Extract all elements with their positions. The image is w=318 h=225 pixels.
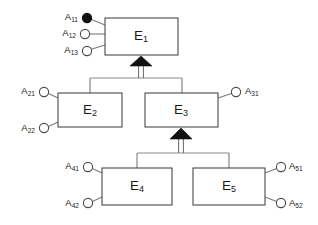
er-diagram: E1 E2 E3 E4 E5 xyxy=(0,0,318,225)
attribute-circle-a13[interactable] xyxy=(82,46,91,55)
attribute-circle-a21[interactable] xyxy=(39,87,48,96)
attribute-label-a21: A21 xyxy=(21,85,35,97)
generalization-shaft-lower xyxy=(179,139,184,153)
attribute-label-a52: A52 xyxy=(289,197,303,209)
attribute-label-a13: A13 xyxy=(64,44,78,56)
connector-a51 xyxy=(265,169,277,173)
attribute-label-a42: A42 xyxy=(65,197,79,209)
attribute-circle-a52[interactable] xyxy=(276,198,285,207)
attribute-circle-a42[interactable] xyxy=(83,198,92,207)
connector-a42 xyxy=(92,197,102,201)
attribute-circle-a12[interactable] xyxy=(80,29,89,38)
generalization-arrowhead-upper xyxy=(130,56,152,66)
generalization-arrowhead-lower xyxy=(170,128,192,139)
connector-a41 xyxy=(92,169,102,173)
attribute-circle-a41[interactable] xyxy=(83,162,92,171)
connector-a21 xyxy=(48,94,58,98)
connector-a13 xyxy=(91,45,105,49)
attribute-label-a41: A41 xyxy=(65,160,79,172)
connector-a52 xyxy=(265,197,277,201)
diagram-canvas: E1 E2 E3 E4 E5 xyxy=(0,0,318,225)
attribute-label-a12: A12 xyxy=(62,27,76,39)
attribute-label-a22: A22 xyxy=(21,122,35,134)
attribute-label-a31: A31 xyxy=(245,85,259,97)
attribute-label-a11: A11 xyxy=(65,11,79,23)
connector-a31 xyxy=(218,94,232,98)
attribute-circle-a51[interactable] xyxy=(276,162,285,171)
generalization-to-e1 xyxy=(90,56,182,93)
attribute-circle-a31[interactable] xyxy=(231,87,240,96)
generalization-to-e3 xyxy=(137,128,229,168)
connector-a22 xyxy=(48,122,58,127)
attribute-label-a51: A51 xyxy=(289,160,303,172)
attribute-circle-a22[interactable] xyxy=(39,123,48,132)
connector-a11 xyxy=(91,20,105,25)
generalization-shaft-upper xyxy=(139,66,144,78)
attribute-circle-a11-key[interactable] xyxy=(82,13,91,22)
